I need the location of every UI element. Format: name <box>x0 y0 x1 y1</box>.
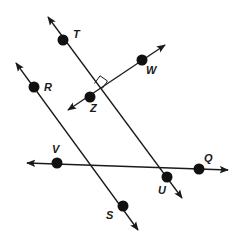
point-label-R: R <box>44 81 52 93</box>
point-label-S: S <box>106 209 114 221</box>
line-TU <box>48 17 182 198</box>
point-R <box>29 82 40 93</box>
geometry-diagram: TWZRVQUS <box>0 0 246 240</box>
lines-group <box>16 17 228 230</box>
line-ZW <box>68 45 165 110</box>
point-label-W: W <box>146 64 158 76</box>
points-group <box>29 35 205 212</box>
point-label-U: U <box>158 184 167 196</box>
point-V <box>52 158 63 169</box>
point-U <box>162 172 173 183</box>
labels-group: TWZRVQUS <box>44 28 213 221</box>
point-label-Q: Q <box>204 152 213 164</box>
point-S <box>118 201 129 212</box>
point-T <box>58 35 69 46</box>
point-label-V: V <box>52 143 61 155</box>
point-Z <box>85 92 96 103</box>
point-Q <box>194 164 205 175</box>
point-label-Z: Z <box>89 102 98 114</box>
point-label-T: T <box>73 28 81 40</box>
